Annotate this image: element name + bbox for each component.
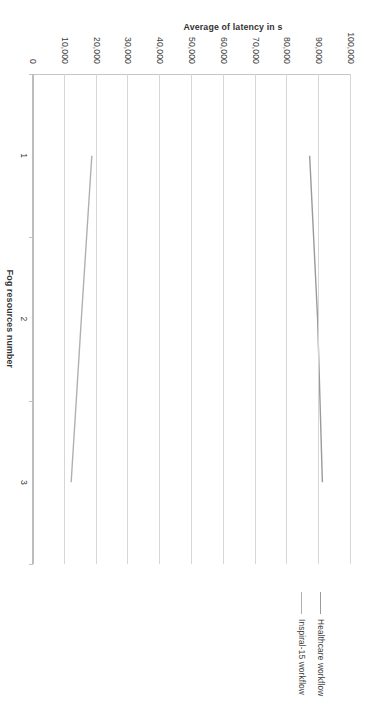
y-axis-tick-label: 20,000 [92,37,102,64]
chart-legend: Healthcare workflow Inspiral-15 workflow [297,592,326,696]
x-axis-tick-label: 2 [19,317,29,322]
y-axis-tick-label: 10,000 [60,37,70,64]
x-axis-tick [29,237,33,238]
plot-canvas [33,74,351,564]
plot-area [33,74,351,564]
legend-item-inspiral-15-workflow[interactable]: Inspiral-15 workflow [297,592,307,696]
gridline [127,74,128,564]
y-axis-tick-label: 30,000 [123,37,133,64]
y-axis-tick-label: 50,000 [187,37,197,64]
x-axis-tick [29,401,33,402]
y-axis-tick-labels: 010,00020,00030,00040,00050,00060,00070,… [33,0,351,70]
gridline [350,74,351,564]
series-line [310,156,323,483]
legend-item-label: Healthcare workflow [316,619,326,696]
gridline [223,74,224,564]
gridline [286,74,287,564]
gridline [96,74,97,564]
y-axis-tick-label: 80,000 [282,37,292,64]
gridline [159,74,160,564]
x-axis-title: Fog resources number [5,74,15,564]
x-axis-tick-label: 1 [19,153,29,158]
rotated-chart-stage: Healthcare workflow Inspiral-15 workflow… [0,0,381,720]
gridline [255,74,256,564]
legend-item-healthcare-workflow[interactable]: Healthcare workflow [316,592,326,696]
series-line [71,156,92,483]
y-axis-title: Average of latency in s [118,22,348,32]
gridline [318,74,319,564]
x-axis-tick-label: 3 [19,480,29,485]
y-axis-tick-label: 0 [28,59,38,64]
x-axis-tick [29,564,33,565]
y-axis-tick-label: 90,000 [314,37,324,64]
line-chart: Healthcare workflow Inspiral-15 workflow… [0,0,381,720]
x-axis-tick-labels: 123 [15,74,29,564]
y-axis-tick-label: 40,000 [155,37,165,64]
x-axis-tick [29,74,33,75]
y-axis-tick-label: 100,000 [346,32,356,64]
series-lines [33,74,351,564]
gridline [32,74,33,564]
gridline [64,74,65,564]
legend-line-icon [321,592,322,614]
legend-line-icon [302,592,303,614]
y-axis-tick-label: 70,000 [251,37,261,64]
y-axis-tick-label: 60,000 [219,37,229,64]
legend-item-label: Inspiral-15 workflow [297,619,307,695]
gridline [191,74,192,564]
